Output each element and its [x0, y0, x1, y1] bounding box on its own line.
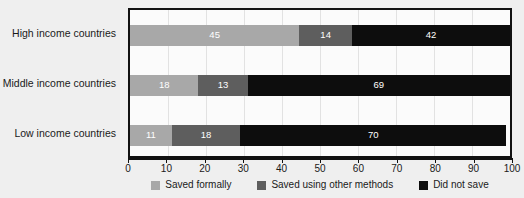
bar-segment: 42 [352, 25, 510, 46]
bar-value-label: 18 [201, 130, 212, 140]
legend-label: Did not save [433, 180, 489, 190]
bar-segment: 70 [240, 125, 506, 146]
category-axis-labels: High income countriesMiddle income count… [0, 8, 122, 158]
x-axis: 0102030405060708090100 [128, 158, 512, 176]
legend-swatch-icon [419, 181, 428, 190]
bar-segment: 11 [130, 125, 172, 146]
bar-segment: 13 [198, 75, 247, 96]
x-axis-tick-label: 90 [468, 163, 479, 174]
bar-segment: 69 [248, 75, 510, 96]
bar-series-container: 451442181369111870 [130, 10, 510, 156]
x-axis-tick-label: 60 [353, 163, 364, 174]
bar-value-label: 18 [159, 80, 170, 90]
stacked-bar-chart: High income countriesMiddle income count… [0, 0, 524, 198]
x-axis-tick-label: 0 [125, 163, 131, 174]
x-axis-tick-label: 30 [238, 163, 249, 174]
legend-item[interactable]: Did not save [419, 180, 489, 190]
bar-row: 451442 [130, 25, 510, 46]
category-label: Middle income countries [0, 77, 116, 89]
chart-legend: Saved formallySaved using other methodsD… [128, 177, 512, 193]
bar-row: 181369 [130, 75, 510, 96]
legend-item[interactable]: Saved using other methods [257, 180, 393, 190]
bar-segment: 18 [172, 125, 240, 146]
bar-value-label: 13 [218, 80, 229, 90]
x-axis-tick-label: 50 [314, 163, 325, 174]
x-axis-tick-label: 10 [161, 163, 172, 174]
x-axis-tick-label: 20 [199, 163, 210, 174]
bar-segment: 45 [130, 25, 299, 46]
bar-segment: 14 [299, 25, 352, 46]
x-axis-tick-label: 80 [430, 163, 441, 174]
legend-label: Saved using other methods [271, 180, 393, 190]
legend-swatch-icon [151, 181, 160, 190]
bar-value-label: 70 [368, 130, 379, 140]
x-axis-tick-label: 40 [276, 163, 287, 174]
bar-value-label: 45 [209, 30, 220, 40]
bar-row: 111870 [130, 125, 510, 146]
legend-item[interactable]: Saved formally [151, 180, 231, 190]
bar-value-label: 42 [426, 30, 437, 40]
bar-value-label: 11 [146, 130, 156, 140]
x-axis-tick-label: 100 [504, 163, 521, 174]
legend-swatch-icon [257, 181, 266, 190]
bar-value-label: 69 [374, 80, 385, 90]
bar-segment: 18 [130, 75, 198, 96]
legend-label: Saved formally [165, 180, 231, 190]
x-axis-tick-label: 70 [391, 163, 402, 174]
category-label: Low income countries [0, 127, 116, 139]
category-label: High income countries [0, 27, 116, 39]
plot-area: 451442181369111870 [128, 8, 512, 158]
bar-value-label: 14 [320, 30, 331, 40]
